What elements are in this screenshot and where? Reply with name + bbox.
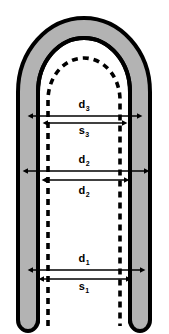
diagram-canvas: d3s3d2d2d1s1 (0, 0, 169, 334)
dimension-d2-lower: d2 (47, 180, 124, 198)
dimension-subscript-d1: 1 (86, 259, 90, 266)
dimension-subscript-d3: 3 (86, 105, 90, 112)
dimension-annotations: d3s3d2d2d1s1 (28, 98, 144, 294)
dimension-subscript-s1: 1 (85, 287, 89, 294)
dimension-label-d2-lower: d2 (78, 184, 89, 198)
dimension-label-d1: d1 (78, 252, 89, 266)
dimension-s1: s1 (44, 279, 126, 294)
dimension-d2-upper: d2 (28, 153, 144, 171)
dimension-label-s3: s3 (79, 124, 90, 138)
dimension-s3: s3 (48, 123, 122, 138)
dimension-subscript-d2-lower: 2 (86, 191, 90, 198)
dimension-label-s1: s1 (79, 280, 90, 294)
dimension-subscript-d2-upper: 2 (86, 160, 90, 167)
dimension-label-d2-upper: d2 (78, 153, 89, 167)
dimension-label-d3: d3 (78, 98, 89, 112)
dimension-subscript-s3: 3 (85, 131, 89, 138)
cross-section-diagram: d3s3d2d2d1s1 (0, 0, 169, 334)
